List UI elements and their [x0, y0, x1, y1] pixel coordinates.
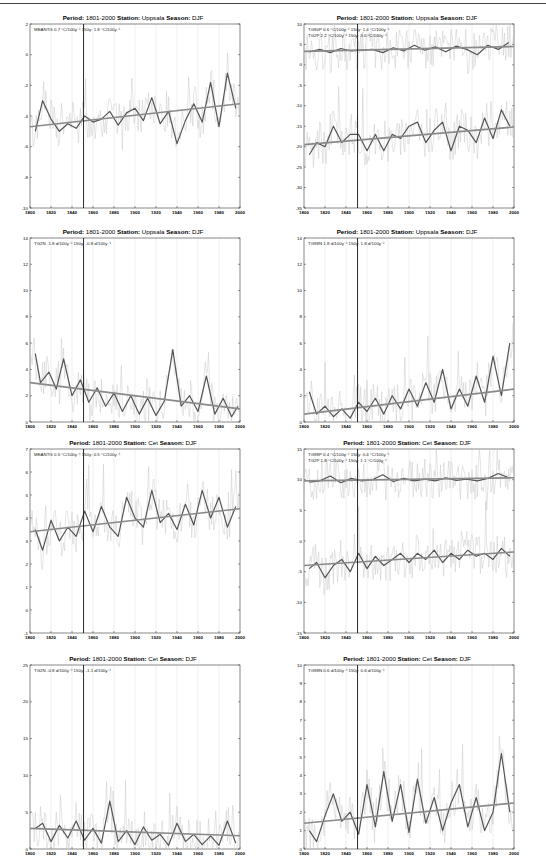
y-tick-label: 4: [300, 367, 303, 372]
y-tick-label: -5: [298, 83, 302, 88]
x-tick-label: 1920: [151, 851, 161, 856]
y-tick-label: 5: [26, 810, 29, 815]
x-tick-label: 1980: [488, 424, 498, 429]
annual-series-line: [31, 464, 240, 570]
x-tick-label: 1900: [130, 424, 140, 429]
plot-area: 0246810121418001820184018601880190019201…: [282, 228, 532, 438]
x-tick-label: 1940: [172, 424, 182, 429]
x-tick-label: 1960: [467, 851, 477, 856]
x-tick-label: 2000: [235, 210, 245, 215]
x-tick-label: 2000: [235, 635, 245, 640]
y-tick-label: 10: [297, 663, 302, 668]
x-tick-label: 1800: [299, 210, 309, 215]
x-tick-label: 1940: [172, 210, 182, 215]
x-tick-label: 1980: [214, 635, 224, 640]
x-tick-label: 1940: [446, 851, 456, 856]
x-tick-label: 1900: [130, 210, 140, 215]
x-tick-label: 1800: [299, 851, 309, 856]
smoothed-line: [309, 343, 510, 418]
x-tick-label: 2000: [235, 851, 245, 856]
x-tick-label: 1960: [193, 210, 203, 215]
legend-entry: TG98N 0.6 d/100y⁻¹ 150y: 0.6 d/100y⁻¹: [308, 668, 385, 673]
x-tick-label: 1920: [151, 210, 161, 215]
x-tick-label: 1920: [151, 424, 161, 429]
y-tick-label: 2: [300, 393, 303, 398]
y-tick-label: 25: [23, 663, 28, 668]
x-tick-label: 1860: [88, 851, 98, 856]
x-tick-label: 1880: [109, 851, 119, 856]
plot-area: 0510152025180018201840186018801900192019…: [8, 655, 258, 863]
legend-entry: MEANTG 0.7 °C/100y⁻¹ 150y: 1.8 °C/100y⁻¹: [34, 27, 121, 32]
chart-panel-p1: Period: 1801-2000 Station: Uppsala Seaso…: [8, 14, 258, 214]
y-tick-label: -5: [298, 569, 302, 574]
legend-entry: TG98P 0.4 °C/100y⁻¹ 150y: 0.4 °C/100y⁻¹: [308, 452, 390, 457]
x-tick-label: 2000: [509, 635, 519, 640]
x-tick-label: 1800: [25, 635, 35, 640]
x-tick-label: 1920: [425, 851, 435, 856]
y-tick-label: 5: [300, 42, 303, 47]
x-tick-label: 1820: [46, 424, 56, 429]
y-tick-label: -20: [296, 144, 303, 149]
y-tick-label: -2: [24, 83, 28, 88]
y-tick-label: 10: [297, 22, 302, 27]
y-tick-label: -25: [296, 165, 303, 170]
legend-entry: TG2N -0.8 d/100y⁻¹ 150y: -1.1 d/100y⁻¹: [34, 668, 112, 673]
y-tick-label: 9: [300, 681, 303, 686]
chart-panel-p7: Period: 1801-2000 Station: Cet Season: D…: [8, 655, 258, 855]
y-tick-label: 12: [23, 262, 28, 267]
x-tick-label: 1920: [425, 424, 435, 429]
y-tick-label: 0: [26, 52, 29, 57]
x-tick-label: 1980: [488, 635, 498, 640]
x-tick-label: 1960: [467, 210, 477, 215]
x-tick-label: 1960: [193, 635, 203, 640]
x-tick-label: 1900: [130, 635, 140, 640]
x-tick-label: 1940: [172, 635, 182, 640]
y-tick-label: 4: [26, 516, 29, 521]
x-tick-label: 1940: [446, 635, 456, 640]
legend-entry: MEANTG 0.5 °C/100y⁻¹ 150y: 0.5 °C/100y⁻¹: [34, 452, 121, 457]
x-tick-label: 1860: [362, 635, 372, 640]
chart-panel-p6: Period: 1801-2000 Station: Cet Season: D…: [282, 439, 532, 639]
chart-panel-p3: Period: 1801-2000 Station: Uppsala Seaso…: [8, 228, 258, 428]
y-tick-label: 2: [26, 393, 29, 398]
x-tick-label: 1980: [488, 851, 498, 856]
y-tick-label: 2: [26, 562, 29, 567]
y-tick-label: 6: [26, 341, 29, 346]
y-tick-label: 1: [300, 828, 303, 833]
y-tick-label: -10: [296, 103, 303, 108]
x-tick-label: 1840: [341, 635, 351, 640]
x-tick-label: 1980: [214, 210, 224, 215]
y-tick-label: 8: [300, 314, 303, 319]
y-tick-label: 12: [297, 262, 302, 267]
x-tick-label: 1940: [446, 424, 456, 429]
x-tick-label: 1980: [214, 424, 224, 429]
x-tick-label: 1800: [25, 210, 35, 215]
x-tick-label: 1860: [88, 424, 98, 429]
y-tick-label: 0: [26, 608, 29, 613]
smoothed-line: [309, 753, 510, 841]
y-tick-label: 1: [26, 585, 29, 590]
y-tick-label: 2: [300, 810, 303, 815]
y-tick-label: 14: [297, 236, 302, 241]
chart-panel-p4: Period: 1801-2000 Station: Uppsala Seaso…: [282, 228, 532, 428]
x-tick-label: 1860: [362, 851, 372, 856]
x-tick-label: 1880: [109, 424, 119, 429]
x-tick-label: 1900: [404, 851, 414, 856]
y-tick-label: -8: [24, 175, 28, 180]
x-tick-label: 1940: [172, 851, 182, 856]
y-tick-label: -4: [24, 114, 28, 119]
plot-area: -10-8-6-4-202180018201840186018801900192…: [8, 14, 258, 224]
x-tick-label: 1820: [46, 210, 56, 215]
x-tick-label: 1840: [67, 635, 77, 640]
x-tick-label: 1900: [404, 635, 414, 640]
x-tick-label: 1840: [67, 851, 77, 856]
y-tick-label: 5: [300, 508, 303, 513]
x-tick-label: 1920: [425, 210, 435, 215]
plot-area: -35-30-25-20-15-10-505101800182018401860…: [282, 14, 532, 224]
x-tick-label: 2000: [509, 424, 519, 429]
x-tick-label: 1800: [25, 424, 35, 429]
x-tick-label: 1840: [341, 424, 351, 429]
y-tick-label: 3: [26, 539, 29, 544]
y-tick-label: 5: [26, 493, 29, 498]
y-tick-label: 7: [300, 718, 303, 723]
